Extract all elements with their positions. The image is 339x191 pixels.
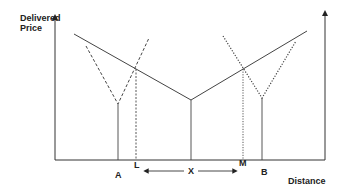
y-axis-label-line1: Delivered (20, 13, 61, 23)
point-label-a: A (115, 170, 122, 180)
point-label-m: M (239, 158, 247, 168)
point-label-x: X (188, 166, 194, 176)
point-label-b: B (261, 167, 268, 177)
firm-b-price-line (223, 36, 296, 98)
point-label-l: L (134, 160, 140, 170)
y-axis-label-line2: Price (20, 23, 61, 33)
y-axis-label: Delivered Price (20, 13, 61, 33)
x-axis-label: Distance (288, 176, 326, 186)
central-price-line (74, 31, 307, 100)
